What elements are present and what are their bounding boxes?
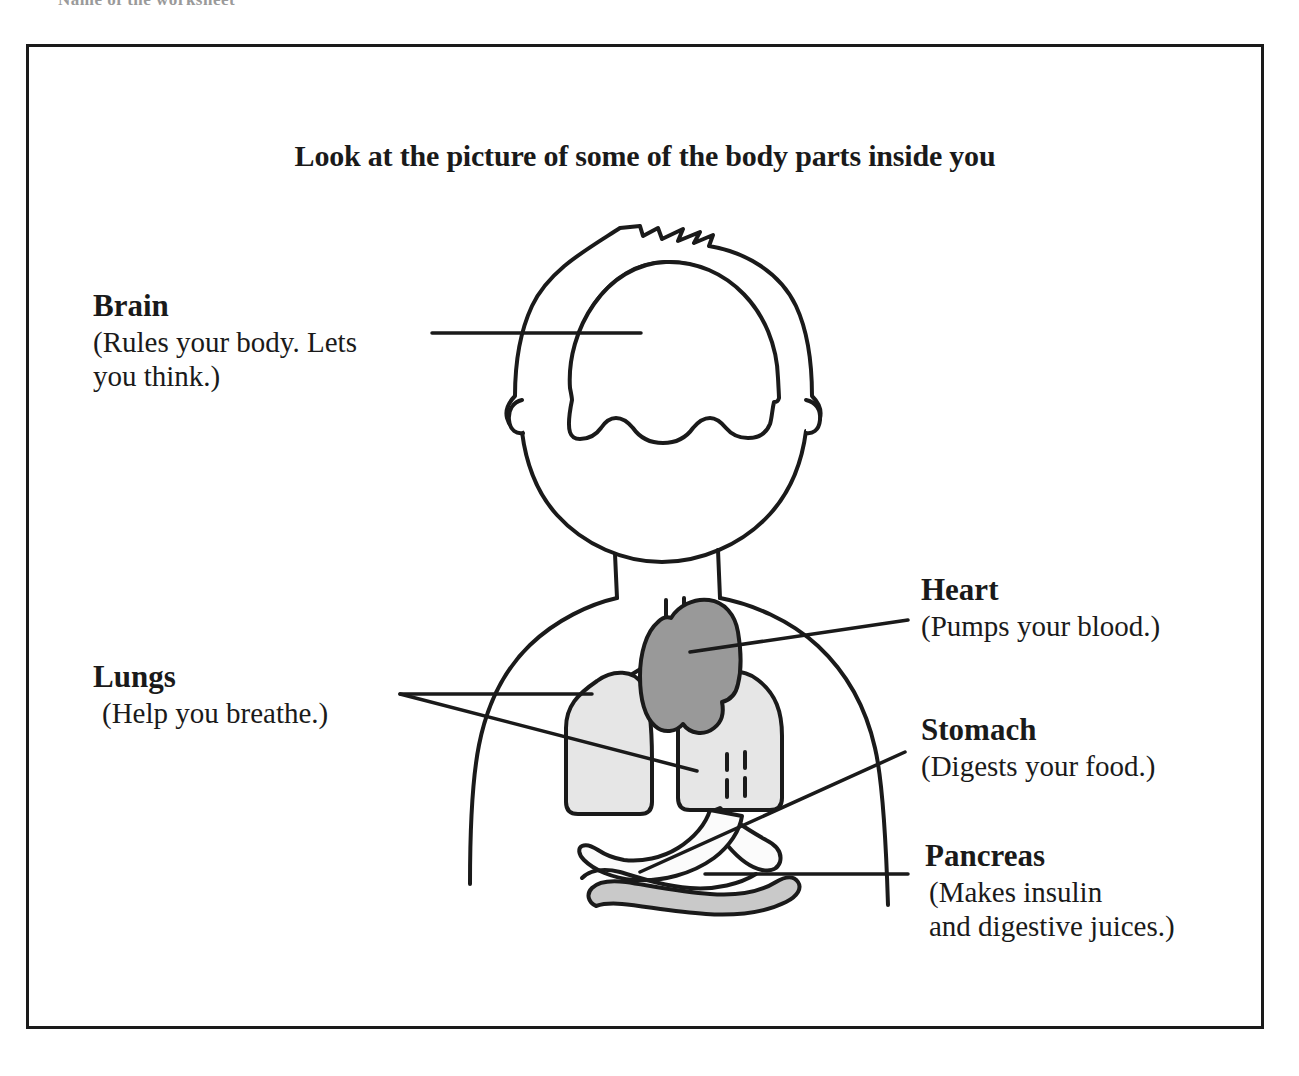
organ-desc-lungs-line1: (Help you breathe.) — [93, 696, 328, 730]
callout-lungs: Lungs (Help you breathe.) — [93, 659, 328, 730]
callout-heart: Heart (Pumps your blood.) — [921, 572, 1160, 643]
organ-name-pancreas: Pancreas — [925, 838, 1175, 875]
organ-desc-brain-line1: (Rules your body. Lets — [93, 325, 357, 359]
organ-name-heart: Heart — [921, 572, 1160, 609]
organ-desc-stomach-line1: (Digests your food.) — [921, 749, 1155, 783]
callout-pancreas: Pancreas (Makes insulin and digestive ju… — [925, 838, 1175, 943]
page-title: Look at the picture of some of the body … — [29, 139, 1261, 173]
organ-desc-pancreas-line2: and digestive juices.) — [925, 909, 1175, 943]
callout-stomach: Stomach (Digests your food.) — [921, 712, 1155, 783]
organ-desc-brain-line2: you think.) — [93, 359, 357, 393]
organ-name-stomach: Stomach — [921, 712, 1155, 749]
organ-name-brain: Brain — [93, 288, 357, 325]
organ-desc-heart-line1: (Pumps your blood.) — [921, 609, 1160, 643]
organ-name-lungs: Lungs — [93, 659, 328, 696]
scan-top-cut-text: Name of the worksheet — [58, 0, 358, 6]
callout-brain: Brain (Rules your body. Lets you think.) — [93, 288, 357, 393]
organ-desc-pancreas-line1: (Makes insulin — [925, 875, 1175, 909]
